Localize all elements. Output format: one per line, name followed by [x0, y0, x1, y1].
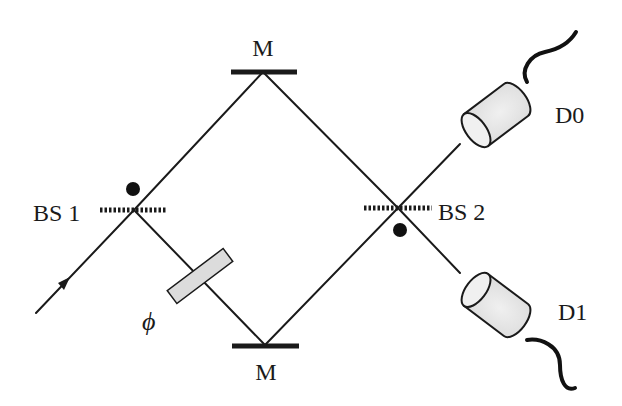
label-mirror-bottom: M	[255, 359, 276, 385]
beam-bs1-to-top-mirror	[134, 72, 263, 210]
detector-d1	[456, 268, 575, 389]
label-bs1: BS 1	[33, 200, 80, 226]
label-mirror-top: M	[252, 35, 273, 61]
interferometer-diagram: M M BS 1 BS 2 ϕ D0 D1	[0, 0, 622, 406]
label-d1: D1	[558, 299, 587, 325]
beam-top-mirror-to-bs2	[263, 72, 398, 208]
detector-d0-cable	[525, 32, 576, 82]
bs2-marker-dot	[393, 223, 407, 237]
bs1-marker-dot	[126, 182, 140, 196]
label-bs2: BS 2	[438, 199, 485, 225]
detector-d1-cable	[527, 340, 575, 389]
detector-d0	[456, 32, 576, 152]
phase-shifter-plate	[167, 249, 233, 304]
label-phase: ϕ	[142, 307, 155, 336]
beam-bottom-mirror-to-bs2	[265, 208, 398, 345]
label-d0: D0	[555, 102, 584, 128]
